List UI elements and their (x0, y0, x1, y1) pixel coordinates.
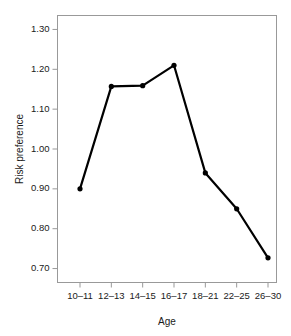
data-point-marker (171, 63, 176, 68)
y-axis-tick-label: 0.90 (31, 182, 50, 193)
y-axis-tick-label: 1.30 (31, 23, 50, 34)
x-axis-title: Age (158, 316, 176, 327)
y-axis-tick-label: 0.70 (31, 262, 50, 273)
data-point-marker (140, 83, 145, 88)
y-axis-tick-label: 0.80 (31, 222, 50, 233)
y-axis-title: Risk preference (14, 114, 25, 184)
x-axis-tick-label: 16–17 (161, 290, 187, 301)
x-axis-tick-label: 18–21 (192, 290, 218, 301)
x-axis-tick-label: 22–25 (223, 290, 249, 301)
data-point-marker (234, 206, 239, 211)
x-axis-tick-label: 10–11 (67, 290, 93, 301)
y-axis-tick-label: 1.10 (31, 103, 50, 114)
chart-background (0, 0, 291, 336)
data-point-marker (265, 255, 270, 260)
data-point-marker (77, 186, 82, 191)
x-axis-tick-label: 14–15 (129, 290, 155, 301)
y-axis-tick-label: 1.20 (31, 63, 50, 74)
risk-preference-line-chart: 0.700.800.901.001.101.201.30 10–1112–131… (0, 0, 291, 336)
x-axis-tick-label: 26–30 (255, 290, 281, 301)
data-point-marker (109, 84, 114, 89)
data-point-marker (203, 170, 208, 175)
chart-canvas: 0.700.800.901.001.101.201.30 10–1112–131… (0, 0, 291, 336)
y-axis-tick-label: 1.00 (31, 143, 50, 154)
x-axis-tick-label: 12–13 (98, 290, 124, 301)
